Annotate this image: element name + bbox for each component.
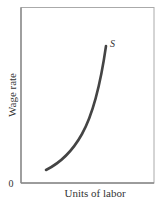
x-axis-label: Units of labor	[64, 187, 125, 199]
chart-plot-area	[0, 0, 158, 200]
y-axis-label: Wage rate	[6, 73, 18, 117]
supply-curve-label: S	[110, 38, 115, 49]
supply-curve	[46, 46, 106, 170]
chart-frame	[21, 8, 154, 184]
origin-label: 0	[9, 178, 14, 189]
